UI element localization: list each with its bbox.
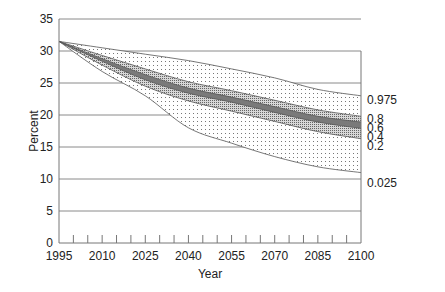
y-tick-label: 15 <box>40 140 54 154</box>
x-tick-label: 2040 <box>175 249 202 263</box>
y-axis-tick-labels: 05101520253035 <box>40 12 54 250</box>
x-tick-label: 2055 <box>218 249 245 263</box>
x-tick-label: 2010 <box>89 249 116 263</box>
quantile-label: 0.2 <box>367 139 384 153</box>
y-tick-label: 25 <box>40 76 54 90</box>
quantile-bands <box>59 41 361 172</box>
quantile-label: 0.975 <box>367 93 397 107</box>
x-tick-label: 1995 <box>46 249 73 263</box>
x-axis-ticks <box>73 235 346 243</box>
y-tick-label: 5 <box>46 204 53 218</box>
y-axis-title: Percent <box>27 110 41 152</box>
quantile-label: 0.025 <box>367 176 397 190</box>
x-axis-title: Year <box>198 267 222 281</box>
y-tick-label: 20 <box>40 108 54 122</box>
y-tick-label: 0 <box>46 236 53 250</box>
x-axis-tick-labels: 19952010202520402055207020852100 <box>46 249 375 263</box>
y-tick-label: 10 <box>40 172 54 186</box>
quantile-labels: 0.9750.80.60.40.20.025 <box>367 93 397 190</box>
x-tick-label: 2085 <box>305 249 332 263</box>
x-tick-label: 2025 <box>132 249 159 263</box>
fan-chart: 05101520253035 1995201020252040205520702… <box>0 0 445 292</box>
x-tick-label: 2070 <box>261 249 288 263</box>
x-tick-label: 2100 <box>348 249 375 263</box>
y-tick-label: 30 <box>40 44 54 58</box>
y-tick-label: 35 <box>40 12 54 26</box>
